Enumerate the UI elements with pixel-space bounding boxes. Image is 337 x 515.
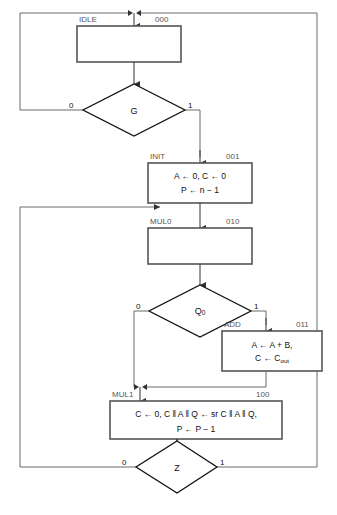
state-op-init-line2: P ← n − 1 (181, 186, 219, 195)
decision-label-z: Z (174, 464, 180, 473)
arrowhead-idle-junction-left (128, 10, 133, 16)
arrowhead-mul1-junction-left (134, 384, 139, 390)
state-op-add-line1: A ← A + B, (252, 341, 293, 350)
arrowhead-mul1-junction-right (142, 384, 147, 390)
state-op-init-line1: A ← 0, C ← 0 (174, 172, 226, 181)
state-code-init: 001 (226, 153, 239, 161)
edge-add-to-mul1 (146, 371, 266, 387)
state-code-idle: 000 (155, 16, 168, 24)
edge-q0-false-to-mul1 (134, 311, 149, 387)
edge-g-true-to-init (185, 110, 200, 157)
state-op-mul1-line2: P ← P − 1 (177, 425, 216, 434)
edge-q0-true-to-add (251, 311, 266, 325)
state-code-mul1: 100 (256, 391, 269, 399)
asm-chart-canvas: IDLE 000 G 0 1 INIT 001 A ← 0, C ← 0 P ←… (0, 0, 337, 515)
state-code-mul0: 010 (226, 218, 239, 226)
branch-label-z-true: 1 (220, 459, 224, 467)
branch-label-g-false: 0 (69, 102, 73, 110)
branch-label-q0-false: 0 (136, 303, 140, 311)
state-box-init (148, 163, 252, 203)
state-box-idle (77, 26, 181, 62)
state-op-add-line2: C ← Cout (255, 354, 289, 363)
decision-label-q0: Q0 (195, 307, 206, 317)
state-label-init: INIT (150, 153, 165, 161)
state-label-add: ADD (224, 321, 241, 329)
state-code-add: 011 (296, 321, 309, 329)
branch-label-z-false: 0 (122, 459, 126, 467)
branch-label-g-true: 1 (188, 102, 192, 110)
state-label-mul1: MUL1 (112, 391, 133, 399)
branch-label-q0-true: 1 (254, 303, 258, 311)
state-op-mul1-line1: C ← 0, C ‖ A ‖ Q ← sr C ‖ A ‖ Q, (135, 410, 257, 419)
state-box-mul0 (148, 228, 252, 264)
arrowhead-idle-junction-right (136, 10, 141, 16)
state-label-mul0: MUL0 (150, 218, 171, 226)
decision-label-g: G (130, 107, 137, 116)
state-label-idle: IDLE (79, 16, 97, 24)
asm-chart-graphics (0, 0, 337, 515)
state-box-add (222, 331, 322, 371)
